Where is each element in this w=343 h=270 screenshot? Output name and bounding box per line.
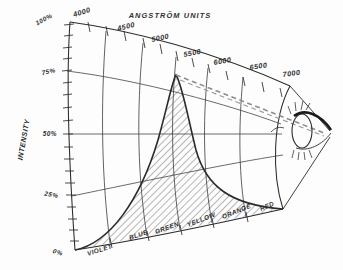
luminosity-curve-area <box>75 75 283 250</box>
y-tick-label-75: 75% <box>41 66 56 76</box>
eye-illustration <box>271 101 331 160</box>
y-tick-label-0: 0% <box>52 247 64 257</box>
wavelength-axis-ticks <box>88 22 282 97</box>
x-tick-label-4000: 4000 <box>71 5 92 19</box>
chart-title: ANGSTRÖM UNITS <box>128 11 212 20</box>
peak-sightline-dashed-2 <box>180 80 324 136</box>
eye-upper-lid <box>294 112 331 130</box>
gridline-4500 <box>103 31 110 243</box>
y-axis-title: INTENSITY <box>15 118 31 161</box>
y-tick-label-25: 25% <box>43 189 59 199</box>
eye-lashes-lower <box>292 150 312 160</box>
x-tick-label-5500: 5500 <box>183 47 202 59</box>
chart-svg: ANGSTRÖM UNITS INTENSITY 4000 4500 5000 … <box>0 0 343 270</box>
x-tick-label-7000: 7000 <box>282 68 301 79</box>
x-tick-label-6000: 6000 <box>213 55 232 67</box>
x-tick-label-6500: 6500 <box>249 60 268 72</box>
eye-lens <box>292 114 312 148</box>
right-boundary-arc <box>275 86 290 209</box>
sightline-bottom <box>283 137 330 209</box>
gridline-6500 <box>240 77 246 217</box>
x-tick-label-4500: 4500 <box>115 20 135 33</box>
sight-lines <box>283 86 330 209</box>
peak-sightline-dashed <box>176 75 324 133</box>
curve-fill <box>75 75 283 250</box>
y-tick-label-50: 50% <box>43 130 57 137</box>
intensity-axis-ticks <box>62 24 79 241</box>
spectral-luminosity-figure: ANGSTRÖM UNITS INTENSITY 4000 4500 5000 … <box>0 0 343 270</box>
y-tick-label-100: 100% <box>34 12 53 27</box>
intensity-axis-line <box>68 22 75 250</box>
eye-lower-lid <box>296 133 331 149</box>
